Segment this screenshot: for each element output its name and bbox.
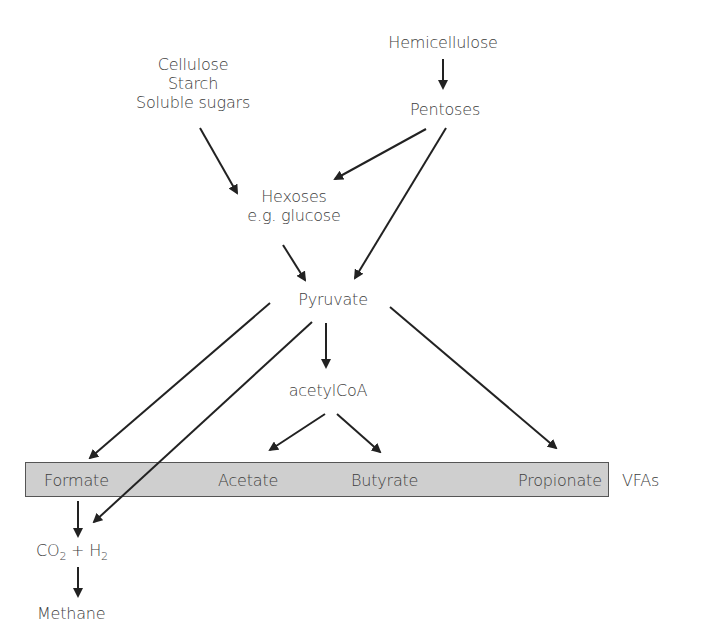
node-acetate: Acetate bbox=[218, 471, 278, 490]
arrow-hexoses-pyruvate bbox=[283, 245, 305, 280]
arrow-polysaccharides-hexoses bbox=[200, 128, 237, 193]
arrow-acetylcoa-butyrate bbox=[337, 414, 380, 452]
node-hexoses: Hexoses e.g. glucose bbox=[247, 187, 340, 225]
arrow-acetylcoa-acetate bbox=[270, 414, 325, 450]
node-hexoses-title: Hexoses bbox=[247, 187, 340, 206]
node-hemicellulose: Hemicellulose bbox=[388, 33, 497, 52]
node-pyruvate: Pyruvate bbox=[298, 290, 368, 309]
arrow-pyruvate-propionate bbox=[390, 307, 556, 448]
arrow-pyruvate-formate bbox=[90, 303, 270, 458]
label-vfas: VFAs bbox=[622, 471, 659, 490]
node-starch: Starch bbox=[136, 74, 250, 93]
arrow-pentoses-pyruvate bbox=[355, 128, 446, 278]
node-butyrate: Butyrate bbox=[351, 471, 418, 490]
node-co2-h2: CO2 + H2 bbox=[36, 541, 108, 560]
node-propionate: Propionate bbox=[518, 471, 602, 490]
node-pentoses: Pentoses bbox=[410, 100, 480, 119]
node-methane: Methane bbox=[37, 604, 105, 623]
node-polysaccharides: Cellulose Starch Soluble sugars bbox=[136, 55, 250, 112]
node-acetylcoa: acetylCoA bbox=[289, 381, 368, 400]
node-formate: Formate bbox=[44, 471, 109, 490]
arrow-pyruvate-co2 bbox=[94, 322, 312, 522]
node-soluble-sugars: Soluble sugars bbox=[136, 93, 250, 112]
node-hexoses-example: e.g. glucose bbox=[247, 206, 340, 225]
node-cellulose: Cellulose bbox=[136, 55, 250, 74]
arrow-pentoses-hexoses bbox=[335, 129, 426, 179]
